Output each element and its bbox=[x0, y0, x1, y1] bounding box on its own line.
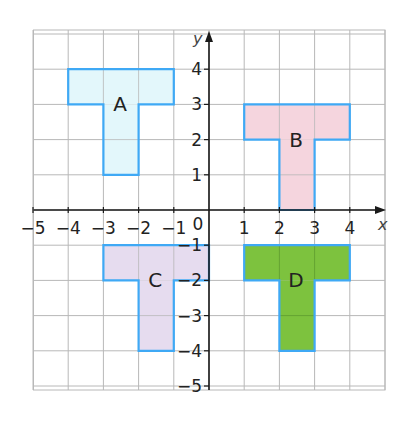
x-axis-arrow-icon bbox=[375, 206, 386, 214]
x-tick-label: 4 bbox=[344, 218, 355, 238]
x-tick-label: −2 bbox=[126, 218, 151, 238]
x-tick-label: 1 bbox=[239, 218, 250, 238]
y-tick-label: −3 bbox=[177, 306, 202, 326]
x-tick-label: 3 bbox=[309, 218, 320, 238]
x-axis-label: x bbox=[377, 215, 388, 234]
shape-c bbox=[103, 245, 209, 351]
y-tick-label: −4 bbox=[177, 341, 202, 361]
y-tick-label: 3 bbox=[191, 94, 202, 114]
x-tick-label: −5 bbox=[20, 218, 45, 238]
shape-b bbox=[244, 104, 350, 210]
y-tick-label: 2 bbox=[191, 130, 202, 150]
x-tick-label: 0 bbox=[193, 214, 204, 234]
y-tick-label: −1 bbox=[177, 235, 202, 255]
coordinate-grid-diagram: −5−4−3−2−1012344321−1−2−3−4−5xyABCD bbox=[0, 0, 406, 423]
shape-label-c: C bbox=[148, 268, 162, 292]
y-tick-label: 4 bbox=[191, 59, 202, 79]
x-tick-label: −4 bbox=[56, 218, 81, 238]
shape-d bbox=[244, 245, 350, 351]
shape-a bbox=[68, 69, 174, 175]
y-tick-label: −5 bbox=[177, 376, 202, 396]
y-tick-label: 1 bbox=[191, 165, 202, 185]
shape-label-b: B bbox=[289, 128, 303, 152]
shape-label-d: D bbox=[288, 268, 303, 292]
y-axis-arrow-icon bbox=[205, 31, 213, 42]
y-tick-label: −2 bbox=[177, 270, 202, 290]
y-axis-label: y bbox=[192, 29, 203, 48]
x-tick-label: 2 bbox=[274, 218, 285, 238]
shape-label-a: A bbox=[113, 92, 127, 116]
x-tick-label: −3 bbox=[91, 218, 116, 238]
grid-canvas: −5−4−3−2−1012344321−1−2−3−4−5xyABCD bbox=[0, 0, 406, 423]
